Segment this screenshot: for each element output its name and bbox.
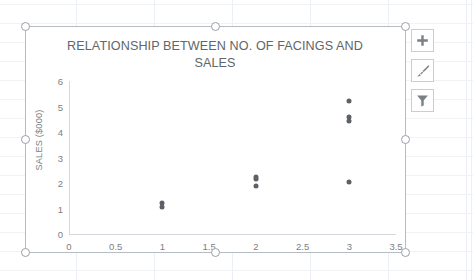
scatter-marker[interactable] bbox=[253, 183, 258, 188]
selection-handle-middle-left[interactable] bbox=[21, 135, 30, 144]
y-axis-tick-label: 4 bbox=[58, 127, 63, 138]
x-axis-tick-label: 3 bbox=[347, 241, 352, 252]
y-axis-tick-label: 5 bbox=[58, 101, 63, 112]
chart-quick-buttons bbox=[411, 29, 434, 119]
chart-styles-button[interactable] bbox=[411, 59, 434, 82]
selection-handle-bottom-right[interactable] bbox=[401, 248, 410, 257]
chart-elements-button[interactable] bbox=[411, 29, 434, 52]
y-axis-title[interactable]: SALES ($000) bbox=[34, 109, 44, 170]
scatter-marker[interactable] bbox=[160, 201, 165, 206]
y-axis-tick-label: 3 bbox=[58, 152, 63, 163]
x-axis-tick-label: 0 bbox=[66, 241, 71, 252]
chart-plot-wrapper: SALES ($000) 012345600.511.522.533.5 bbox=[26, 27, 405, 252]
selection-handle-middle-right[interactable] bbox=[401, 135, 410, 144]
selection-handle-top-left[interactable] bbox=[21, 22, 30, 31]
x-axis-tick-label: 0.5 bbox=[109, 241, 122, 252]
selection-handle-top-middle[interactable] bbox=[211, 22, 220, 31]
scatter-marker[interactable] bbox=[253, 174, 258, 179]
x-axis-tick-label: 2.5 bbox=[296, 241, 309, 252]
plus-icon bbox=[416, 34, 429, 47]
y-axis-tick-label: 0 bbox=[58, 229, 63, 240]
chart-object[interactable]: RELATIONSHIP BETWEEN NO. OF FACINGS AND … bbox=[25, 26, 406, 253]
chart-filters-button[interactable] bbox=[411, 89, 434, 112]
scatter-marker[interactable] bbox=[347, 99, 352, 104]
y-axis-tick-label: 1 bbox=[58, 203, 63, 214]
scatter-marker[interactable] bbox=[347, 179, 352, 184]
x-axis-tick-label: 2 bbox=[253, 241, 258, 252]
plot-area[interactable]: 012345600.511.522.533.5 bbox=[69, 81, 396, 234]
selection-handle-top-right[interactable] bbox=[401, 22, 410, 31]
paintbrush-icon bbox=[416, 64, 430, 78]
selection-handle-bottom-left[interactable] bbox=[21, 248, 30, 257]
x-axis-line[interactable] bbox=[69, 234, 396, 235]
scatter-marker[interactable] bbox=[347, 114, 352, 119]
x-axis-tick-label: 1 bbox=[160, 241, 165, 252]
funnel-icon bbox=[416, 94, 429, 107]
y-axis-tick-label: 6 bbox=[58, 76, 63, 87]
selection-handle-bottom-middle[interactable] bbox=[211, 248, 220, 257]
y-axis-tick-label: 2 bbox=[58, 178, 63, 189]
